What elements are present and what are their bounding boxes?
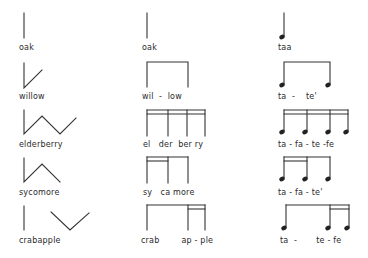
contour-crabapple bbox=[24, 206, 89, 230]
bracket-sycomore bbox=[147, 157, 188, 183]
bracket-willow bbox=[147, 62, 188, 87]
notes-crabapple bbox=[281, 205, 351, 231]
notes-willow bbox=[279, 62, 332, 88]
diagram-drawings bbox=[0, 0, 368, 258]
notes-elderberry bbox=[279, 110, 350, 135]
rhythm-syllables-willow: ta - te' bbox=[278, 92, 317, 102]
notes-oak bbox=[279, 13, 286, 40]
rhythm-syllables-oak: taa bbox=[278, 43, 292, 53]
bracket-elderberry bbox=[147, 110, 205, 136]
syllables-willow: wil - low bbox=[142, 92, 182, 102]
bracket-crabapple bbox=[147, 205, 205, 230]
syllables-sycomore: sy ca more bbox=[143, 188, 195, 198]
word-label-crabapple: crabapple bbox=[19, 236, 61, 246]
word-label-oak: oak bbox=[19, 43, 34, 53]
syllables-oak: oak bbox=[142, 43, 157, 53]
rhythm-syllables-sycomore: ta - fa - te' bbox=[278, 188, 323, 198]
syllables-elderberry: el der ber ry bbox=[143, 140, 203, 150]
rhythm-syllables-crabapple: ta - te - fe bbox=[280, 236, 341, 246]
rhythm-syllables-elderberry: ta - fa - te -fe bbox=[278, 140, 334, 150]
word-label-elderberry: elderberry bbox=[19, 140, 63, 150]
contour-elderberry bbox=[24, 110, 76, 134]
word-label-sycomore: sycomore bbox=[19, 188, 60, 198]
rhythm-word-chart: oak willow elderberry sycomore crabapple… bbox=[0, 0, 368, 258]
syllables-crabapple: crab ap - ple bbox=[141, 236, 213, 246]
contour-sycomore bbox=[24, 158, 60, 182]
word-label-willow: willow bbox=[19, 92, 45, 102]
notes-sycomore bbox=[279, 157, 332, 182]
contour-willow bbox=[24, 63, 42, 88]
